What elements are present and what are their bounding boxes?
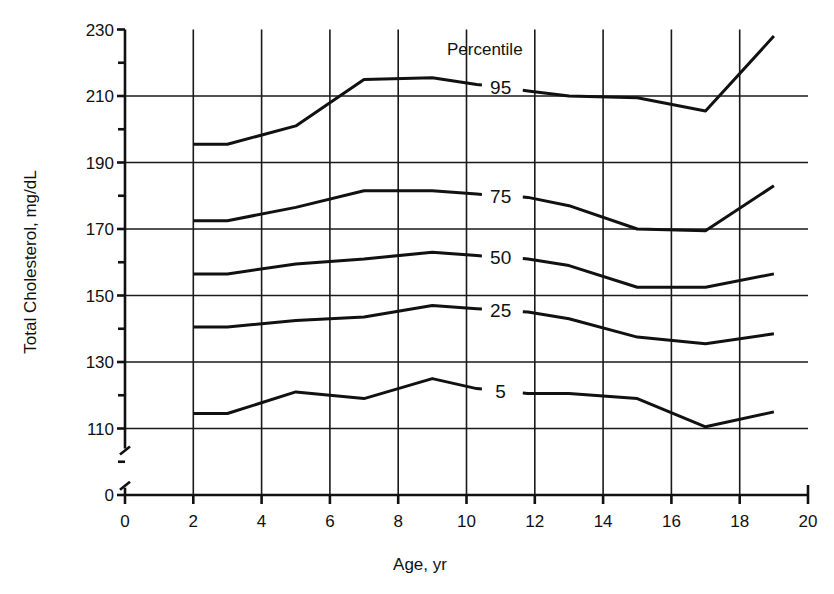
x-tick-label: 18 bbox=[730, 512, 749, 531]
x-tick-label: 20 bbox=[799, 512, 818, 531]
percentile-50-line-left bbox=[193, 252, 482, 274]
series-labels: 957550255 bbox=[490, 77, 511, 401]
axes: 011013015017019021023002468101214161820 bbox=[86, 21, 818, 532]
x-tick-label: 4 bbox=[257, 512, 266, 531]
percentile-50-label: 50 bbox=[490, 247, 511, 268]
percentile-25-line-left bbox=[193, 306, 482, 328]
y-tick-label: 0 bbox=[105, 486, 114, 505]
percentile-5-label: 5 bbox=[495, 381, 506, 402]
percentile-95-line-right bbox=[523, 36, 774, 111]
y-tick-label: 210 bbox=[86, 87, 114, 106]
percentile-95-label: 95 bbox=[490, 77, 511, 98]
percentile-50-line-right bbox=[523, 259, 774, 288]
x-tick-label: 14 bbox=[594, 512, 613, 531]
percentile-95-line-left bbox=[193, 78, 482, 145]
percentile-75-line-left bbox=[193, 191, 482, 221]
grid-lines bbox=[125, 30, 808, 496]
percentile-5-line-right bbox=[523, 393, 774, 427]
y-tick-label: 230 bbox=[86, 21, 114, 40]
cholesterol-percentile-chart: 011013015017019021023002468101214161820 … bbox=[0, 0, 834, 594]
y-tick-label: 190 bbox=[86, 154, 114, 173]
y-tick-label: 110 bbox=[87, 420, 114, 439]
y-tick-label: 170 bbox=[86, 220, 114, 239]
percentile-75-label: 75 bbox=[490, 186, 511, 207]
y-tick-label: 130 bbox=[86, 353, 114, 372]
y-tick-label: 150 bbox=[86, 287, 114, 306]
x-tick-label: 16 bbox=[662, 512, 681, 531]
x-tick-label: 6 bbox=[325, 512, 334, 531]
percentile-5-line-left bbox=[193, 379, 482, 414]
percentile-75-line-right bbox=[523, 186, 774, 231]
percentile-25-line-right bbox=[523, 312, 774, 344]
percentile-25-label: 25 bbox=[490, 300, 511, 321]
legend-title: Percentile bbox=[447, 40, 523, 59]
x-tick-label: 0 bbox=[120, 512, 129, 531]
x-tick-label: 10 bbox=[457, 512, 476, 531]
x-tick-label: 8 bbox=[393, 512, 402, 531]
x-tick-label: 2 bbox=[189, 512, 198, 531]
x-axis-title: Age, yr bbox=[393, 555, 447, 574]
percentile-lines bbox=[193, 36, 774, 427]
y-axis-title: Total Cholesterol, mg/dL bbox=[21, 170, 40, 353]
x-tick-label: 12 bbox=[525, 512, 544, 531]
